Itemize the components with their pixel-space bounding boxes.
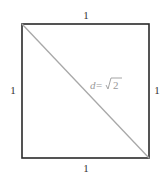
left-side-label: 1 bbox=[10, 84, 16, 96]
diagonal-equals: = bbox=[96, 79, 102, 91]
right-side-label: 1 bbox=[154, 84, 160, 96]
diagonal-label: d = 2 bbox=[90, 78, 122, 91]
diagonal-line bbox=[22, 24, 149, 158]
top-side-label: 1 bbox=[83, 9, 89, 21]
square-diagram: 1 1 1 1 d = 2 bbox=[0, 0, 166, 184]
bottom-side-label: 1 bbox=[83, 162, 89, 174]
diagonal-value: 2 bbox=[113, 79, 119, 91]
